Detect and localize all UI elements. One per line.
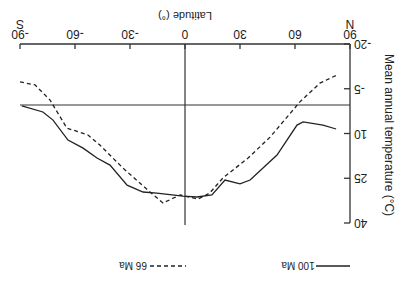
legend: 100 Ma 66 Ma — [119, 260, 350, 271]
legend-dashed-label: 66 Ma — [119, 260, 147, 271]
latitude-axis-label: Latitude (°) — [158, 10, 212, 22]
latitude-tick-label: -60 — [66, 27, 84, 41]
legend-solid-label: 100 Ma — [281, 260, 315, 271]
latitude-temperature-chart: -90-60-300306090 -20-5102540 Latitude (°… — [0, 0, 405, 282]
latitude-tick-label: 60 — [288, 27, 302, 41]
temperature-tick-label: 40 — [354, 216, 368, 230]
temperature-tick-label: -20 — [354, 37, 372, 51]
latitude-tick-label: 30 — [233, 27, 247, 41]
temperature-tick-label: 25 — [354, 171, 368, 185]
axes — [20, 44, 350, 225]
temperature-tick-label: 10 — [354, 127, 368, 141]
temperature-ticks: -20-5102540 — [344, 37, 371, 230]
north-label: N — [346, 17, 355, 31]
latitude-ticks: -90-60-300306090 — [11, 27, 357, 49]
latitude-tick-label: 0 — [181, 27, 188, 41]
series-100-ma-line — [22, 106, 336, 197]
south-label: S — [16, 17, 24, 31]
latitude-tick-label: -30 — [121, 27, 139, 41]
temperature-tick-label: -5 — [354, 82, 365, 96]
temperature-axis-label: Mean annual temperature (°C) — [382, 54, 396, 216]
